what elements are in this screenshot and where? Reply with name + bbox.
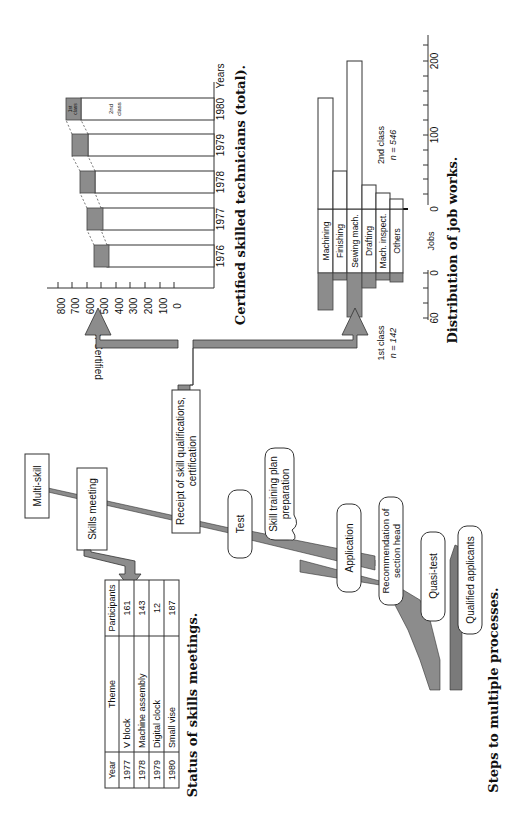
cat-others: Others	[392, 228, 402, 254]
svg-text:1977: 1977	[122, 760, 132, 780]
right-tick-0: 0	[429, 206, 440, 212]
jobs-label: Jobs	[426, 231, 436, 251]
year-1979: 1979	[215, 133, 226, 156]
svg-text:161: 161	[122, 600, 132, 615]
ytick-700: 700	[70, 297, 81, 314]
ytick-800: 800	[56, 297, 67, 314]
left-tick-60: 60	[429, 312, 440, 324]
svg-text:12: 12	[152, 603, 162, 613]
ytick-400: 400	[114, 297, 125, 314]
svg-text:2nd: 2nd	[108, 104, 114, 114]
step-application: Application	[337, 504, 361, 592]
left-ticks	[423, 273, 428, 318]
ytick-100: 100	[158, 297, 169, 314]
svg-text:class: class	[116, 102, 122, 116]
svg-text:1978: 1978	[137, 760, 147, 780]
jobs-chart: 0 100 200 0 60 Machining Finishing Sewin…	[318, 35, 460, 361]
receipt-line2: certification	[187, 436, 198, 487]
ytick-200: 200	[143, 297, 154, 314]
step-qualified-applicants: Qualified applicants	[458, 526, 482, 634]
ytick-500: 500	[99, 297, 110, 314]
ytick-0: 0	[172, 303, 183, 309]
year-1976: 1976	[215, 244, 226, 267]
ytick-600: 600	[85, 297, 96, 314]
svg-text:preparation: preparation	[280, 469, 291, 520]
right-tick-100: 100	[429, 126, 440, 143]
svg-text:Recommendation of: Recommendation of	[380, 508, 391, 593]
bar-1980: 1st class 2nd class	[66, 98, 214, 120]
meetings-table: Participants Theme Year 161 V block 1977…	[105, 580, 200, 797]
svg-text:Qualified applicants: Qualified applicants	[465, 536, 476, 623]
svg-text:Skill training plan: Skill training plan	[268, 456, 279, 532]
cat-mach-inspect: Mach. inspect.	[378, 214, 388, 269]
svg-text:1980: 1980	[167, 760, 177, 780]
svg-text:class: class	[72, 103, 78, 115]
years-label: Years	[215, 63, 226, 88]
left-tick-0: 0	[429, 270, 440, 276]
step-skills-meeting: Skills meeting	[77, 468, 107, 550]
step-multi-skill: Multi-skill	[25, 454, 49, 518]
flow-diagram: Multi-skill Skills meeting Receipt of sk…	[25, 390, 501, 793]
step-test: Test	[228, 490, 252, 558]
second-class-label: 2nd class	[376, 125, 386, 164]
bar-1976	[94, 245, 214, 267]
count-ticks	[58, 282, 174, 288]
cat-machining: Machining	[321, 221, 331, 260]
step-training-plan: Skill training plan preparation	[265, 448, 297, 540]
flow-caption: Steps to multiple processes.	[486, 587, 501, 792]
step-quasi-test: Quasi-test	[421, 532, 445, 621]
figure-canvas: 800 700 600 500 400 300 200 100 0 No. Ce…	[0, 0, 510, 820]
jobs-caption: Distribution of job works.	[445, 157, 460, 344]
ytick-300: 300	[128, 297, 139, 314]
svg-text:Application: Application	[344, 524, 355, 573]
cat-sewing: Sewing mach.	[350, 214, 360, 267]
svg-text:V block: V block	[122, 718, 132, 748]
svg-text:Multi-skill: Multi-skill	[32, 465, 43, 506]
flow-band-lower	[300, 560, 440, 690]
svg-text:Receipt of skill qualification: Receipt of skill qualifications,	[175, 397, 186, 525]
step-recommendation: Recommendation of section head	[379, 497, 403, 605]
svg-text:Test: Test	[235, 515, 246, 534]
header-year: Year	[107, 761, 117, 779]
branch-arrow	[85, 308, 368, 400]
right-ticks	[423, 45, 428, 194]
first-class-label: 1st class	[376, 325, 386, 361]
certified-chart: 800 700 600 500 400 300 200 100 0 No. Ce…	[47, 63, 248, 379]
year-1978: 1978	[215, 170, 226, 193]
first-class-n: n = 142	[388, 328, 398, 358]
table-caption: Status of skills meetings.	[185, 613, 200, 798]
cat-drafting: Drafting	[364, 226, 374, 256]
svg-text:Quasi-test: Quasi-test	[428, 553, 439, 599]
header-participants: Participants	[107, 584, 117, 632]
svg-text:1979: 1979	[152, 760, 162, 780]
year-1980: 1980	[215, 97, 226, 120]
year-1977: 1977	[215, 207, 226, 230]
bar-1977	[87, 208, 214, 230]
svg-text:Small vise: Small vise	[167, 707, 177, 748]
svg-text:143: 143	[137, 600, 147, 615]
svg-text:Machine assembly: Machine assembly	[137, 673, 147, 748]
bar-1979	[72, 134, 214, 156]
cat-finishing: Finishing	[335, 224, 345, 258]
svg-text:section head: section head	[391, 524, 402, 578]
svg-text:Skills meeting: Skills meeting	[87, 478, 98, 540]
svg-text:Digital clock: Digital clock	[152, 699, 162, 748]
header-theme: Theme	[107, 680, 117, 708]
first-class-bars	[318, 273, 403, 317]
second-class-n: n = 546	[388, 130, 398, 160]
right-tick-200: 200	[429, 52, 440, 69]
svg-text:187: 187	[167, 600, 177, 615]
certified-caption: Certified skilled technicians (total).	[233, 65, 248, 325]
bar-1978	[80, 171, 214, 193]
category-labels: Machining Finishing Sewing mach. Draftin…	[318, 209, 436, 273]
